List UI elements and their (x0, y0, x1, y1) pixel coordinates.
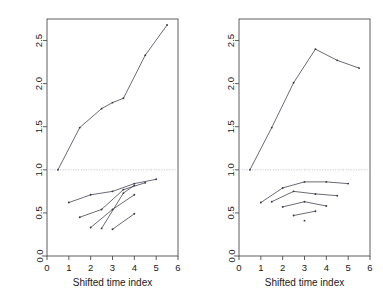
data-point (79, 127, 81, 129)
y-tick-label: 2.5 (34, 34, 45, 47)
x-tick-label: 0 (44, 262, 49, 273)
data-point (122, 189, 124, 191)
x-tick-label: 6 (367, 262, 372, 273)
series-line-segment-2 (80, 183, 146, 217)
y-tick-label: 0.0 (226, 249, 237, 262)
data-point (90, 227, 92, 229)
data-point (293, 215, 295, 217)
x-tick-label: 2 (88, 262, 93, 273)
y-tick-label: 0.0 (34, 249, 45, 262)
data-point (282, 187, 284, 189)
x-tick-label: 3 (302, 262, 307, 273)
x-tick-label: 5 (346, 262, 351, 273)
data-point (293, 82, 295, 84)
data-point (314, 193, 316, 195)
data-point (271, 127, 273, 129)
data-point (112, 228, 114, 230)
chart-panel-right: 0.00.51.01.52.02.50123456Shifted time in… (192, 0, 383, 307)
x-tick-label: 4 (324, 262, 329, 273)
x-tick-label: 0 (236, 262, 241, 273)
series-line-main-trajectory (58, 25, 167, 170)
series-line-segment-4 (102, 185, 135, 228)
data-point (144, 182, 146, 184)
series-line-segment-1 (261, 182, 348, 203)
x-axis-label: Shifted time index (265, 277, 345, 288)
data-point (112, 190, 114, 192)
y-tick-label: 0.5 (226, 206, 237, 219)
y-tick-label: 1.0 (226, 163, 237, 176)
data-point (282, 206, 284, 208)
chart-panel-left: 0.00.51.01.52.02.50123456Shifted time in… (0, 0, 191, 307)
data-point (271, 201, 273, 203)
y-tick-label: 1.5 (226, 120, 237, 133)
y-tick-label: 1.0 (34, 163, 45, 176)
data-point (112, 102, 114, 104)
data-point (304, 220, 306, 222)
data-point (260, 202, 262, 204)
plot-frame (47, 19, 178, 256)
data-point (133, 184, 135, 186)
series-line-segment-4 (294, 211, 316, 215)
data-point (325, 181, 327, 183)
data-point (144, 54, 146, 56)
x-tick-label: 3 (110, 262, 115, 273)
data-point (79, 216, 81, 218)
data-point (325, 205, 327, 207)
data-point (101, 209, 103, 211)
plot-area-left: 0.00.51.01.52.02.50123456Shifted time in… (0, 0, 191, 307)
series-line-segment-2 (272, 191, 338, 201)
y-tick-label: 0.5 (34, 206, 45, 219)
data-point (314, 48, 316, 50)
x-tick-label: 2 (280, 262, 285, 273)
data-point (314, 210, 316, 212)
data-point (122, 192, 124, 194)
data-point (133, 213, 135, 215)
data-point (166, 24, 168, 26)
x-tick-label: 4 (132, 262, 137, 273)
figure-root: 0.00.51.01.52.02.50123456Shifted time in… (0, 0, 383, 307)
data-point (304, 201, 306, 203)
data-point (293, 190, 295, 192)
data-point (336, 195, 338, 197)
data-point (133, 194, 135, 196)
series-line-main-trajectory (250, 49, 359, 170)
plot-area-right: 0.00.51.01.52.02.50123456Shifted time in… (192, 0, 383, 307)
data-point (90, 194, 92, 196)
y-tick-label: 1.5 (34, 120, 45, 133)
series-line-segment-5 (113, 214, 135, 230)
x-tick-label: 1 (66, 262, 71, 273)
data-point (304, 181, 306, 183)
x-tick-label: 6 (175, 262, 180, 273)
data-point (336, 59, 338, 61)
data-point (347, 183, 349, 185)
y-tick-label: 2.0 (34, 77, 45, 90)
data-point (133, 183, 135, 185)
data-point (68, 202, 70, 204)
y-tick-label: 2.5 (226, 34, 237, 47)
data-point (101, 227, 103, 229)
x-tick-label: 1 (258, 262, 263, 273)
data-point (358, 67, 360, 69)
data-point (249, 169, 251, 171)
x-axis-label: Shifted time index (73, 277, 153, 288)
x-tick-label: 5 (154, 262, 159, 273)
data-point (155, 178, 157, 180)
y-tick-label: 2.0 (226, 77, 237, 90)
data-point (101, 108, 103, 110)
data-point (122, 97, 124, 99)
data-point (57, 169, 59, 171)
